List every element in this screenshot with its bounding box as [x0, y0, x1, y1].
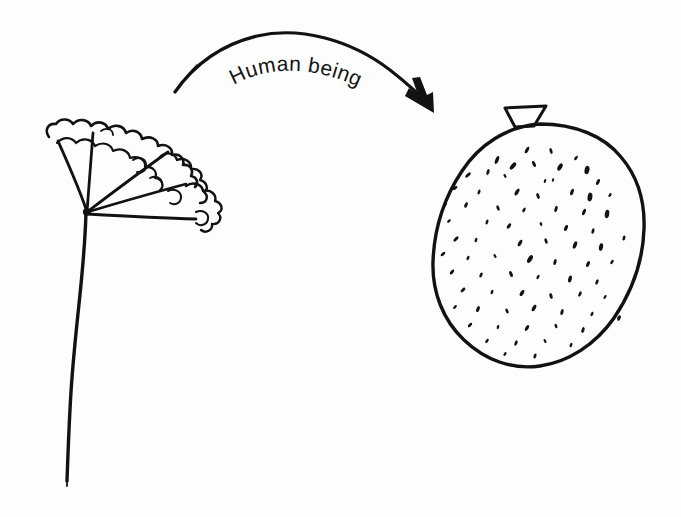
fruit-speckle: [572, 241, 578, 249]
fruit-speckle: [474, 237, 478, 242]
fruit-speckle: [604, 209, 610, 218]
arrow-label: Human being: [225, 52, 365, 91]
fruit-speckle: [556, 162, 564, 171]
fruit-speckle: [477, 189, 481, 195]
fruit-speckle: [464, 172, 471, 179]
fruit-speckle: [509, 161, 518, 170]
fruit-speckle: [486, 169, 491, 176]
fruit-speckle: [581, 208, 587, 216]
fruit-speckle: [514, 340, 519, 346]
fruit-speckle: [554, 323, 558, 328]
illustration-svg: Human being: [0, 0, 681, 517]
arrow-head-icon: [405, 77, 434, 113]
plant-rib-2: [87, 133, 93, 212]
fruit-speckle: [622, 235, 626, 241]
fruit-speckle: [531, 160, 536, 167]
fruit-speckle: [506, 223, 512, 230]
fruit-speckle: [452, 304, 457, 309]
fruit-speckle-group: [440, 146, 626, 359]
fruit-speckle: [524, 146, 530, 154]
fruit-speckle: [447, 219, 452, 224]
fruit-speckle: [494, 155, 500, 164]
fruit-speckle: [466, 255, 470, 260]
fruit-speckle: [536, 193, 541, 200]
fruit-speckle: [475, 305, 480, 312]
fruit-speckle: [533, 353, 537, 359]
fruit-speckle: [536, 274, 541, 279]
fruit-speckle: [543, 338, 547, 343]
fruit-speckle: [544, 238, 548, 244]
fruit-speckle: [591, 228, 595, 234]
plant-leaf-curl-2: [168, 190, 181, 204]
fruit-speckle: [543, 179, 546, 183]
fruit-speckle: [531, 304, 538, 312]
fruit-speckle: [603, 294, 607, 299]
fruit-speckle: [549, 293, 554, 300]
fruit-speckle: [608, 193, 612, 198]
fruit-speckle: [584, 165, 590, 174]
fruit-speckle: [587, 192, 593, 201]
fruit-speckle: [595, 279, 600, 285]
fruit-speckle: [610, 259, 615, 264]
fruit-speckle: [569, 188, 574, 195]
fruit-speckle: [505, 308, 510, 314]
fruit-speckle: [554, 206, 558, 213]
fruit-speckle: [598, 243, 603, 251]
fruit-speckle: [490, 289, 494, 294]
fruit-speckle: [585, 260, 590, 267]
fruit-speckle: [569, 342, 573, 347]
fruit-speckle: [595, 178, 600, 185]
fruit-speckle: [567, 275, 572, 283]
fruit-speckle: [549, 148, 554, 155]
fruit-speckle: [484, 338, 489, 343]
fruit-outline: [433, 124, 644, 367]
fruit-speckle: [479, 272, 484, 278]
fruit-speckle: [496, 205, 501, 211]
fruit-speckle: [563, 224, 569, 231]
fruit-speckle: [519, 289, 525, 297]
fruit-speckle: [560, 309, 565, 316]
fruit-speckle: [460, 287, 466, 293]
fruit-speckle: [553, 259, 558, 266]
fruit-speckle: [514, 188, 521, 196]
fruit-illustration: [433, 106, 644, 367]
illustration-canvas: Human being: [0, 0, 681, 517]
plant-stem: [67, 212, 86, 481]
plant-rib-4: [87, 184, 186, 212]
fruit-speckle: [526, 254, 534, 264]
fruit-speckle: [508, 270, 513, 277]
fruit-speckle: [578, 291, 583, 297]
fruit-speckle: [573, 155, 578, 161]
fruit-speckle: [581, 327, 586, 334]
fruit-speckle: [522, 207, 527, 213]
plant-rib-5: [87, 214, 196, 219]
fruit-speckle: [493, 253, 497, 258]
plant-leaf-margin-upper: [47, 120, 197, 188]
fruit-speckle: [524, 324, 530, 331]
fruit-speckle: [449, 269, 455, 276]
plant-leaf-curl-4: [101, 129, 113, 135]
fruit-speckle: [503, 352, 507, 357]
fruit-speckle: [463, 202, 468, 209]
arrow-arc-tail-taper: [175, 65, 197, 92]
fruit-speckle: [440, 251, 446, 257]
fruit-speckle: [517, 239, 523, 247]
fruit-speckle: [539, 222, 542, 226]
arrow-label-textpath: Human being: [225, 52, 365, 91]
fruit-speckle: [453, 236, 460, 243]
fruit-speckle: [590, 311, 594, 316]
plant-illustration: [47, 120, 222, 487]
plant-rib-1: [58, 141, 87, 212]
fruit-speckle: [496, 325, 500, 330]
plant-rib-3: [87, 152, 168, 212]
fruit-speckle: [551, 178, 554, 182]
fruit-speckle: [467, 322, 473, 328]
fruit-speckle: [503, 173, 507, 178]
fruit-speckle: [485, 219, 489, 225]
plant-leaf-curl-3: [196, 211, 208, 225]
